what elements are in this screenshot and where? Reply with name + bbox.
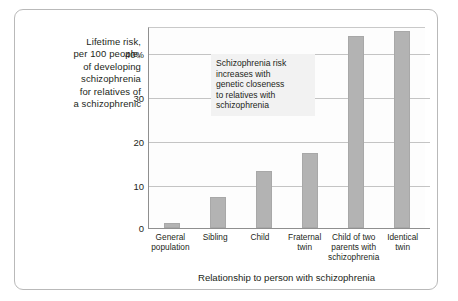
y-tick-label-10: 10 <box>133 181 144 192</box>
x-axis-category-label: Identicaltwin <box>380 233 425 262</box>
bar[interactable] <box>348 36 364 228</box>
bar[interactable] <box>210 197 226 228</box>
y-tick-label-20: 20 <box>133 137 144 148</box>
bar-slot <box>149 28 195 228</box>
annotation-line: Schizophrenia risk <box>216 58 310 69</box>
y-axis-title-line: Lifetime risk, <box>29 36 141 48</box>
x-axis-category-label: Fraternaltwin <box>282 233 327 262</box>
bar[interactable] <box>302 153 318 227</box>
annotation-line: genetic closeness <box>216 79 310 90</box>
plot-area: 40% 30 20 10 0 Schizophrenia risk increa… <box>148 27 425 229</box>
chart-annotation: Schizophrenia risk increases with geneti… <box>211 54 315 116</box>
annotation-line: to relatives with <box>216 90 310 101</box>
y-axis-title: Lifetime risk, per 100 people, of develo… <box>29 36 141 110</box>
x-axis-category-label: Child <box>238 233 283 262</box>
x-axis-category-line: population <box>149 243 192 253</box>
y-axis-title-line: a schizophrenic <box>29 98 141 110</box>
y-tick-label-40: 40% <box>125 49 144 60</box>
bar[interactable] <box>256 171 272 228</box>
bar-slot <box>333 28 379 228</box>
x-axis-category-line: Sibling <box>194 233 237 243</box>
x-axis-title: Relationship to person with schizophreni… <box>148 272 425 283</box>
y-axis-title-line: for relatives of <box>29 86 141 98</box>
annotation-line: schizophrenia <box>216 100 310 111</box>
x-axis-category-line: Child <box>239 233 282 243</box>
y-axis-title-line: schizophrenia <box>29 73 141 85</box>
bar[interactable] <box>394 31 410 227</box>
x-axis-category-label: Sibling <box>193 233 238 262</box>
x-axis-category-label: Child of twoparents withschizophrenia <box>327 233 380 262</box>
x-axis-categories: GeneralpopulationSiblingChildFraternaltw… <box>148 233 425 262</box>
y-tick-label-0: 0 <box>139 222 144 233</box>
bar-slot <box>379 28 425 228</box>
x-axis-category-line: schizophrenia <box>328 253 379 263</box>
figure-card: Lifetime risk, per 100 people, of develo… <box>14 9 438 290</box>
axis-baseline: 0 <box>149 228 430 229</box>
x-axis-category-label: Generalpopulation <box>148 233 193 262</box>
x-axis-category-line: twin <box>381 243 424 253</box>
bar[interactable] <box>164 223 180 227</box>
y-tick-label-30: 30 <box>133 93 144 104</box>
x-axis-category-line: twin <box>283 243 326 253</box>
y-axis-title-line: of developing <box>29 61 141 73</box>
annotation-line: increases with <box>216 69 310 80</box>
